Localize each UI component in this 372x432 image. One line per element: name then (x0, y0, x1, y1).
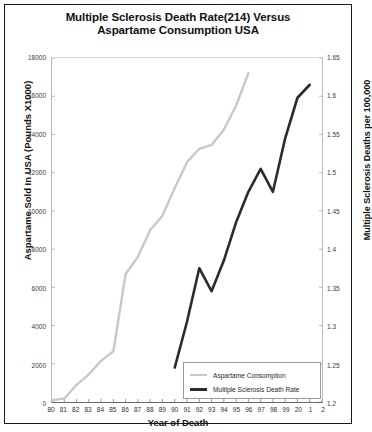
x-axis-tick-label: 88 (146, 406, 153, 413)
chart-legend: Aspartame Consumption Multiple Sclerosis… (183, 362, 321, 399)
y-axis-right-tick-label: 1.6 (323, 92, 336, 99)
plot-area (51, 57, 323, 403)
x-axis-tick-label: 82 (72, 406, 79, 413)
x-axis-tick-label: 81 (60, 406, 67, 413)
chart-title-line-2: Aspartame Consumption USA (5, 24, 351, 37)
y-axis-right-tick-label: 1.45 (323, 207, 340, 214)
x-axis-tick-label: 1 (309, 406, 313, 413)
chart-canvas (52, 58, 322, 402)
x-axis-tick-label: 84 (97, 406, 104, 413)
x-axis-tick-label: 99 (282, 406, 289, 413)
y-axis-left-tick-label: 6000 (32, 284, 49, 291)
legend-item-aspartame-consumption: Aspartame Consumption (190, 368, 320, 382)
chart-title: Multiple Sclerosis Death Rate(214) Versu… (5, 11, 351, 37)
y-axis-right-tick-label: 1.25 (323, 361, 340, 368)
x-axis-tick-label: 2 (321, 406, 325, 413)
x-axis-tick-label: 83 (84, 406, 91, 413)
y-axis-right-ticks: 1.21.251.31.351.41.451.51.551.61.65 (323, 57, 361, 403)
chart-frame: Multiple Sclerosis Death Rate(214) Versu… (4, 4, 352, 424)
y-axis-right-tick-label: 1.55 (323, 130, 340, 137)
x-axis-tick-label: 98 (270, 406, 277, 413)
y-axis-left-tick-label: 10000 (28, 207, 49, 214)
y-axis-left-tick-label: 12000 (28, 169, 49, 176)
x-axis-tick-label: 94 (220, 406, 227, 413)
x-axis-ticks: 8081828384858687888990919293949596979899… (51, 406, 323, 418)
x-axis-title: Year of Death (5, 417, 351, 428)
x-axis-tick-label: 91 (183, 406, 190, 413)
y-axis-right-tick-label: 1.65 (323, 54, 340, 61)
legend-item-ms-death-rate: Multiple Sclerosis Death Rate (190, 382, 320, 396)
y-axis-left-tick-label: 14000 (28, 130, 49, 137)
x-axis-tick-label: 80 (47, 406, 54, 413)
x-axis-tick-label: 92 (196, 406, 203, 413)
y-axis-right-tick-label: 1.3 (323, 323, 336, 330)
x-axis-tick-label: 20 (295, 406, 302, 413)
series-line-multiple-sclerosis-death-rate (175, 85, 310, 368)
x-axis-tick-label: 87 (134, 406, 141, 413)
y-axis-left-tick-label: 8000 (32, 246, 49, 253)
x-axis-tick-label: 85 (109, 406, 116, 413)
y-axis-left-tick-label: 4000 (32, 323, 49, 330)
x-axis-tick-label: 89 (159, 406, 166, 413)
legend-label: Aspartame Consumption (213, 372, 286, 379)
legend-swatch-line-icon (190, 374, 207, 376)
x-axis-tick-label: 93 (208, 406, 215, 413)
x-axis-tick-label: 95 (233, 406, 240, 413)
legend-label: Multiple Sclerosis Death Rate (213, 386, 300, 393)
y-axis-right-title: Multiple Sclerosis Deaths per 100,000 (362, 10, 372, 310)
y-axis-right-tick-label: 1.5 (323, 169, 336, 176)
y-axis-left-tick-label: 2000 (32, 361, 49, 368)
x-axis-tick-label: 90 (171, 406, 178, 413)
series-line-aspartame-consumption (52, 73, 248, 400)
y-axis-left-tick-label: 18000 (28, 54, 49, 61)
chart-title-line-1: Multiple Sclerosis Death Rate(214) Versu… (5, 11, 351, 24)
x-axis-tick-label: 96 (245, 406, 252, 413)
x-axis-tick-label: 97 (258, 406, 265, 413)
x-axis-tick-label: 86 (122, 406, 129, 413)
legend-swatch-line-icon (190, 388, 207, 391)
y-axis-right-tick-label: 1.35 (323, 284, 340, 291)
y-axis-left-tick-label: 16000 (28, 92, 49, 99)
y-axis-left-ticks: 0200040006000800010000120001400016000180… (5, 57, 49, 403)
y-axis-right-tick-label: 1.4 (323, 246, 336, 253)
